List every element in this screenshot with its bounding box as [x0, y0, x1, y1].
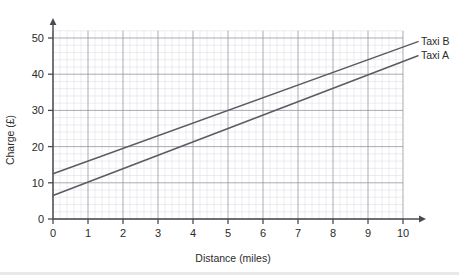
x-tick-label: 7	[295, 227, 301, 239]
faint-header-text	[8, 0, 388, 9]
x-tick-label: 3	[155, 227, 161, 239]
y-tick-label: 20	[32, 141, 44, 153]
x-axis-ticks: 012345678910	[50, 219, 409, 239]
y-axis-title: Charge (£)	[4, 115, 16, 165]
y-tick-label: 50	[32, 32, 44, 44]
x-tick-label: 6	[260, 227, 266, 239]
y-tick-label: 10	[32, 177, 44, 189]
x-tick-label: 2	[120, 227, 126, 239]
y-axis-ticks: 01020304050	[32, 32, 53, 225]
series-labels-group: Taxi BTaxi A	[421, 35, 450, 61]
series-label-taxi-a: Taxi A	[421, 49, 449, 61]
x-tick-label: 8	[330, 227, 336, 239]
y-tick-label: 30	[32, 104, 44, 116]
x-tick-label: 1	[85, 227, 91, 239]
y-tick-label: 40	[32, 68, 44, 80]
series-label-taxi-b: Taxi B	[421, 35, 450, 47]
x-tick-label: 4	[190, 227, 196, 239]
x-tick-label: 5	[225, 227, 231, 239]
taxi-charge-line-chart: 01020304050 012345678910 Taxi BTaxi A Di…	[0, 0, 459, 275]
data-series-group	[53, 42, 418, 196]
y-tick-label: 0	[38, 213, 44, 225]
x-tick-label: 0	[50, 227, 56, 239]
y-axis-arrow	[50, 18, 57, 25]
x-tick-label: 10	[397, 227, 409, 239]
chart-container: 01020304050 012345678910 Taxi BTaxi A Di…	[0, 0, 459, 275]
series-line-taxi-a	[53, 56, 418, 196]
x-tick-label: 9	[365, 227, 371, 239]
x-axis-arrow	[419, 216, 426, 223]
x-axis-title: Distance (miles)	[195, 252, 270, 264]
axes	[50, 18, 426, 222]
